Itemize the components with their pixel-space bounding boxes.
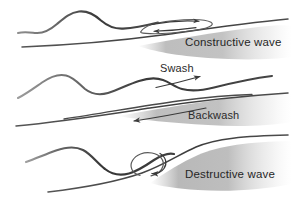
panel-constructive-wave: Constructive wave xyxy=(18,11,292,59)
label-backwash: Backwash xyxy=(188,109,239,121)
orbit-top-arrow-icon xyxy=(152,21,199,25)
wave-line-2 xyxy=(18,75,272,98)
label-constructive-wave: Constructive wave xyxy=(185,36,282,48)
wave-line-3 xyxy=(26,147,174,174)
wave-types-diagram: Constructive wave Swash Backwash xyxy=(0,0,292,205)
swash-arrow-icon xyxy=(156,77,200,88)
panel-swash-backwash: Swash Backwash xyxy=(16,62,292,126)
panel-destructive-wave: Destructive wave xyxy=(26,135,292,192)
wave-line-1 xyxy=(18,11,158,33)
label-swash: Swash xyxy=(160,62,194,74)
label-destructive-wave: Destructive wave xyxy=(185,168,275,180)
wave-diagram-canvas: Constructive wave Swash Backwash xyxy=(0,0,292,205)
shore-shading-3 xyxy=(150,141,292,191)
